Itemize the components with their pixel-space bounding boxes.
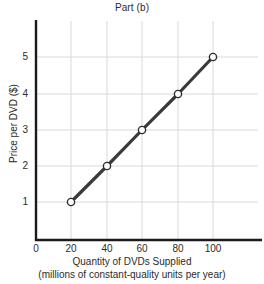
data-point	[138, 126, 145, 133]
x-axis-label: Quantity of DVDs Supplied	[0, 256, 264, 267]
y-tick-label-3: 3	[6, 124, 28, 135]
y-tick-label-5: 5	[6, 51, 28, 62]
x-tick-label-20: 20	[56, 243, 86, 254]
x-tick-label-0: 0	[21, 243, 51, 254]
x-tick-label-40: 40	[92, 243, 122, 254]
data-point	[103, 162, 110, 169]
data-point	[67, 198, 74, 205]
x-axis-sublabel: (millions of constant-quality units per …	[0, 269, 264, 280]
data-point	[174, 90, 181, 97]
y-tick-label-2: 2	[6, 160, 28, 171]
data-point	[209, 53, 216, 60]
x-tick-label-60: 60	[127, 243, 157, 254]
horizontal-gridlines	[36, 57, 258, 202]
y-tick-label-1: 1	[6, 196, 28, 207]
plot-area	[0, 0, 264, 284]
x-tick-label-80: 80	[163, 243, 193, 254]
supply-curve-chart: Part (b) Price per DVD ($) 5 4	[0, 0, 264, 284]
y-tick-label-4: 4	[6, 88, 28, 99]
x-tick-label-100: 100	[198, 243, 228, 254]
